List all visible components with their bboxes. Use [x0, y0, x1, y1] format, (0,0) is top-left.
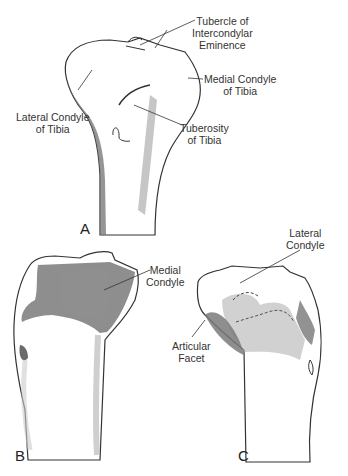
- label-line: Lateral: [286, 227, 325, 239]
- label-line: Tubercle of: [192, 15, 253, 27]
- label-lateral-condyle: Lateral Condyle: [286, 227, 325, 251]
- label-line: of Tibia: [204, 85, 276, 97]
- panel-label-b: B: [15, 447, 25, 464]
- label-line: Medial Condyle: [204, 73, 276, 85]
- label-articular-facet: Articular Facet: [172, 340, 211, 364]
- panel-b-bone: [14, 252, 150, 460]
- label-line: Articular: [172, 340, 211, 352]
- label-line: of Tibia: [180, 134, 229, 146]
- label-tubercle-of-intercondylar-eminence: Tubercle of Intercondylar Eminence: [192, 15, 253, 51]
- label-tuberosity-of-tibia: Tuberosity of Tibia: [180, 122, 229, 146]
- label-line: Tuberosity: [180, 122, 229, 134]
- panel-label-a: A: [80, 220, 90, 237]
- label-medial-condyle-of-tibia: Medial Condyle of Tibia: [204, 73, 276, 97]
- panel-c-bone: [192, 250, 321, 462]
- label-medial-condyle: Medial Condyle: [146, 264, 185, 288]
- panel-label-c: C: [238, 447, 249, 464]
- label-line: Facet: [172, 352, 211, 364]
- label-line: Eminence: [192, 39, 253, 51]
- label-line: Condyle: [286, 239, 325, 251]
- label-line: Intercondylar: [192, 27, 253, 39]
- label-line: of Tibia: [16, 123, 90, 135]
- label-lateral-condyle-of-tibia: Lateral Condyle of Tibia: [16, 111, 90, 135]
- label-line: Medial: [146, 264, 185, 276]
- label-line: Lateral Condyle: [16, 111, 90, 123]
- label-line: Condyle: [146, 276, 185, 288]
